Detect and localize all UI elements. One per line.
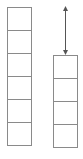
difference-arrow-icon: [0, 0, 83, 159]
